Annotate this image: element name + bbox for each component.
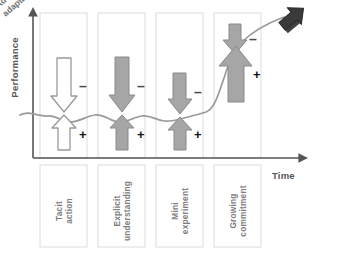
process-performance-diagram: Performance Time Adoption / adaptation T… bbox=[0, 0, 339, 260]
phase-label-line2: action bbox=[64, 198, 74, 224]
sign-negative-growing-commitment: – bbox=[249, 33, 257, 46]
phase-label-growing-commitment: Growing commitment bbox=[228, 171, 248, 251]
phase-label-line1: Growing bbox=[228, 193, 238, 228]
phase-label-line2: experiment bbox=[180, 188, 190, 234]
phase-label-tacit-action: Tacit action bbox=[54, 171, 74, 251]
sign-positive-tacit-action: + bbox=[79, 128, 87, 141]
phase-label-line1: Tacit bbox=[54, 201, 64, 221]
sign-positive-growing-commitment: + bbox=[253, 68, 261, 81]
phase-label-line1: Explicit bbox=[112, 195, 122, 226]
phase-label-line2: commitment bbox=[238, 185, 248, 236]
sign-negative-mini-experiment: – bbox=[194, 86, 202, 99]
block-arrow-up-right-icon bbox=[275, 0, 311, 35]
sign-positive-mini-experiment: + bbox=[194, 128, 202, 141]
sign-negative-tacit-action: – bbox=[79, 80, 87, 93]
sign-negative-explicit-understanding: – bbox=[137, 80, 145, 93]
y-axis-label: Performance bbox=[9, 28, 20, 108]
phase-label-explicit-understanding: Explicit understanding bbox=[112, 171, 132, 251]
phase-label-line2: understanding bbox=[122, 181, 132, 241]
phase-label-mini-experiment: Mini experiment bbox=[170, 171, 190, 251]
x-axis-label: Time bbox=[272, 170, 295, 181]
phase-label-line1: Mini bbox=[170, 202, 180, 219]
sign-positive-explicit-understanding: + bbox=[137, 128, 145, 141]
